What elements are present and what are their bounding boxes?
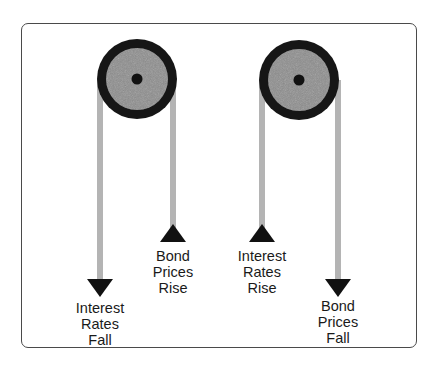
label-line: Fall — [55, 332, 145, 348]
label-line: Rates — [217, 264, 307, 280]
label-line: Fall — [293, 330, 383, 346]
pulley-axle — [294, 75, 305, 86]
label-line: Rise — [128, 280, 218, 296]
label-line: Prices — [293, 314, 383, 330]
label-line: Rise — [217, 280, 307, 296]
label-bond-prices-rise: Bond Prices Rise — [128, 248, 218, 296]
arrow-down-icon — [325, 279, 351, 297]
arrow-up-icon — [249, 224, 275, 242]
rope-right-down — [335, 80, 341, 280]
label-line: Interest — [217, 248, 307, 264]
label-interest-rates-fall: Interest Rates Fall — [55, 300, 145, 348]
label-line: Bond — [293, 298, 383, 314]
arrow-down-icon — [87, 279, 113, 297]
rope-left-down — [97, 80, 103, 280]
label-interest-rates-rise: Interest Rates Rise — [217, 248, 307, 296]
label-line: Interest — [55, 300, 145, 316]
label-line: Bond — [128, 248, 218, 264]
arrow-up-icon — [160, 224, 186, 242]
label-bond-prices-fall: Bond Prices Fall — [293, 298, 383, 346]
pulley-axle — [132, 74, 143, 85]
rope-right-up — [259, 80, 265, 228]
label-line: Rates — [55, 316, 145, 332]
rope-left-up — [170, 80, 176, 228]
label-line: Prices — [128, 264, 218, 280]
